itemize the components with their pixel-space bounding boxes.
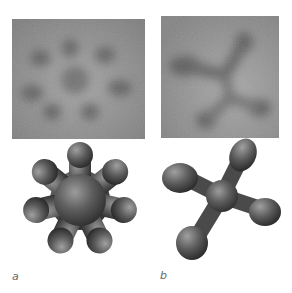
panel-label-a: a — [12, 270, 19, 283]
micrograph-b — [161, 16, 279, 138]
micrograph-a — [12, 19, 145, 139]
model-b-four-lobe — [162, 134, 281, 260]
panel-label-b: b — [160, 269, 167, 282]
model-a-seven-lobe-star — [21, 142, 140, 258]
figure-canvas — [0, 0, 292, 293]
